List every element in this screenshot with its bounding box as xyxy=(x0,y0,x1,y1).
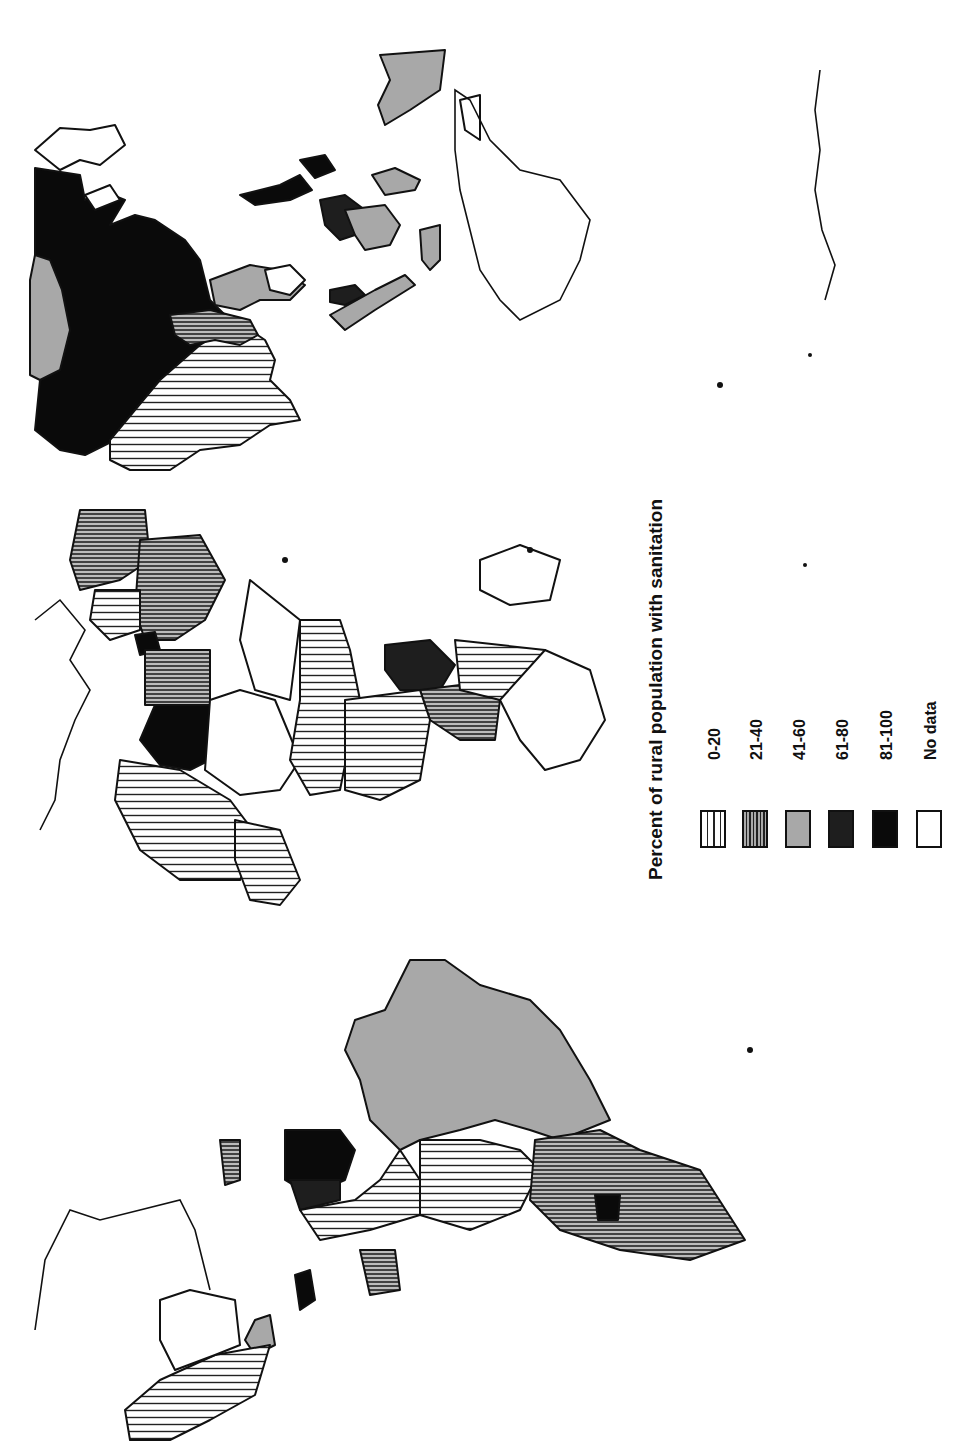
legend-label: 61-80 xyxy=(834,719,852,760)
legend-label: 41-60 xyxy=(791,719,809,760)
legend-label: 0-20 xyxy=(706,728,724,760)
swatch-dense-lines xyxy=(742,810,768,848)
swatch-light-stipple xyxy=(785,810,811,848)
swatch-empty xyxy=(916,810,942,848)
legend-label: 81-100 xyxy=(878,710,896,760)
legend-label: 21-40 xyxy=(748,719,766,760)
swatch-sparse-lines xyxy=(700,810,726,848)
europe-coastline xyxy=(35,600,90,830)
swatch-solid xyxy=(872,810,898,848)
africa-middle-east-region xyxy=(70,510,605,905)
asia-region xyxy=(30,50,480,470)
north-america-region xyxy=(35,1140,315,1440)
antarctica-coastline xyxy=(815,70,835,300)
legend-item-no-data: No data xyxy=(916,700,968,850)
south-america-region xyxy=(285,960,745,1295)
swatch-dark-stipple xyxy=(828,810,854,848)
legend-label: No data xyxy=(922,701,940,760)
legend-title: Percent of rural population with sanitat… xyxy=(645,499,667,880)
